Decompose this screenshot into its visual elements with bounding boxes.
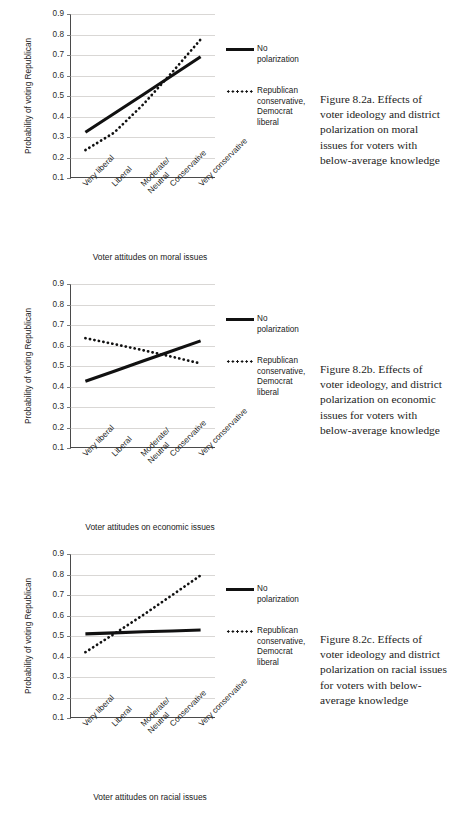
chart-area: Probability of voting Republican0.90.80.…: [0, 270, 300, 540]
legend-label-no-polarization: No polarization: [254, 584, 306, 605]
y-tick-label: 0.2: [53, 153, 64, 161]
series-layer: [71, 284, 215, 447]
legend-label-no-polarization: No polarization: [254, 44, 306, 65]
y-tick-label: 0.5: [53, 362, 64, 370]
y-tick-label: 0.1: [53, 174, 64, 182]
figure-caption: Figure 8.2a. Effects of voter ideology a…: [320, 92, 448, 168]
y-tick-label: 0.5: [53, 92, 64, 100]
y-tick-mark: [67, 718, 71, 719]
legend-item-no-polarization[interactable]: No polarization: [226, 314, 306, 335]
figure-8-2c: Probability of voting Republican0.90.80.…: [0, 540, 452, 810]
x-axis-title: Voter attitudes on moral issues: [70, 252, 230, 262]
legend-item-no-polarization[interactable]: No polarization: [226, 44, 306, 65]
y-axis-title: Probability of voting Republican: [23, 578, 33, 694]
y-tick-label: 0.6: [53, 341, 64, 349]
y-tick-label: 0.4: [53, 112, 64, 120]
series-line-republican-conservative: [85, 575, 200, 652]
figure-caption: Figure 8.2b. Effects of voter ideology, …: [320, 362, 448, 438]
y-tick-label: 0.3: [53, 403, 64, 411]
y-tick-label: 0.9: [53, 550, 64, 558]
y-tick-label: 0.4: [53, 382, 64, 390]
legend-label-republican-conservative: Republicanconservative,Democratliberal: [254, 626, 305, 668]
chart-area: Probability of voting Republican0.90.80.…: [0, 540, 300, 810]
y-tick-label: 0.3: [53, 133, 64, 141]
y-tick-label: 0.3: [53, 673, 64, 681]
legend-item-republican-conservative[interactable]: Republicanconservative,Democratliberal: [226, 86, 305, 128]
chart-area: Probability of voting Republican0.90.80.…: [0, 0, 300, 270]
plot-region: 0.90.80.70.60.50.40.30.20.1: [70, 284, 215, 448]
y-tick-mark: [67, 448, 71, 449]
y-tick-mark: [67, 178, 71, 179]
y-tick-label: 0.4: [53, 652, 64, 660]
y-tick-label: 0.6: [53, 71, 64, 79]
legend-dotted-line-icon: [226, 357, 254, 367]
y-tick-label: 0.2: [53, 423, 64, 431]
y-axis-title: Probability of voting Republican: [23, 38, 33, 154]
legend-solid-line-icon: [226, 45, 254, 55]
y-tick-label: 0.2: [53, 693, 64, 701]
y-tick-label: 0.5: [53, 632, 64, 640]
y-tick-label: 0.8: [53, 30, 64, 38]
x-axis-title: Voter attitudes on racial issues: [70, 792, 230, 802]
series-layer: [71, 14, 215, 177]
y-axis-title: Probability of voting Republican: [23, 308, 33, 424]
y-tick-label: 0.9: [53, 10, 64, 18]
legend-dotted-line-icon: [226, 627, 254, 637]
legend-label-republican-conservative: Republicanconservative,Democratliberal: [254, 86, 305, 128]
legend-item-republican-conservative[interactable]: Republicanconservative,Democratliberal: [226, 356, 305, 398]
y-tick-label: 0.6: [53, 611, 64, 619]
figure-caption: Figure 8.2c. Effects of voter ideology a…: [320, 632, 448, 708]
y-tick-label: 0.8: [53, 570, 64, 578]
y-tick-label: 0.7: [53, 321, 64, 329]
figure-8-2b: Probability of voting Republican0.90.80.…: [0, 270, 452, 540]
plot-region: 0.90.80.70.60.50.40.30.20.1: [70, 14, 215, 178]
y-tick-label: 0.1: [53, 444, 64, 452]
plot-region: 0.90.80.70.60.50.40.30.20.1: [70, 554, 215, 718]
series-line-no-polarization: [85, 630, 200, 634]
legend-solid-line-icon: [226, 585, 254, 595]
y-tick-label: 0.7: [53, 591, 64, 599]
series-layer: [71, 554, 215, 717]
series-line-no-polarization: [85, 57, 200, 132]
y-tick-label: 0.8: [53, 300, 64, 308]
x-axis-title: Voter attitudes on economic issues: [70, 522, 230, 532]
series-line-no-polarization: [85, 341, 200, 381]
y-tick-label: 0.1: [53, 714, 64, 722]
y-tick-label: 0.9: [53, 280, 64, 288]
legend-label-republican-conservative: Republicanconservative,Democratliberal: [254, 356, 305, 398]
legend-label-no-polarization: No polarization: [254, 314, 306, 335]
figure-8-2a: Probability of voting Republican0.90.80.…: [0, 0, 452, 270]
legend-dotted-line-icon: [226, 87, 254, 97]
legend-item-no-polarization[interactable]: No polarization: [226, 584, 306, 605]
y-tick-label: 0.7: [53, 51, 64, 59]
legend-solid-line-icon: [226, 315, 254, 325]
legend-item-republican-conservative[interactable]: Republicanconservative,Democratliberal: [226, 626, 305, 668]
